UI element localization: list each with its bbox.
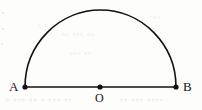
point-o-label: O (95, 92, 104, 105)
point-a-marker (22, 84, 27, 89)
point-a-label: A (9, 80, 18, 93)
point-b-marker (173, 84, 178, 89)
semicircle-arc (25, 10, 176, 87)
point-o-marker (97, 84, 102, 89)
point-b-label: B (183, 80, 192, 93)
semicircle-figure: • • • ▫ ▫ ▫ ▫▫ ▫▫▫ ▫▫ ▫▫▫ ▫▫ ▫ ▫▫▫ ▫▫ ▫ … (0, 0, 202, 110)
